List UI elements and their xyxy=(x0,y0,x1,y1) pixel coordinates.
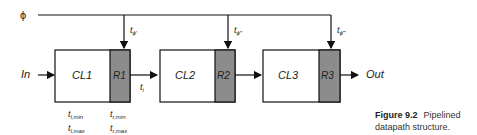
interstage-label: ti xyxy=(140,82,145,93)
figure-caption: Figure 9.2Pipelined xyxy=(375,110,461,120)
timing-register-min: tr,min xyxy=(110,109,126,120)
timing-logic-min: tl,min xyxy=(68,109,84,120)
stage-2-logic-label: CL2 xyxy=(175,69,195,81)
stage-1-register-label: R1 xyxy=(113,70,126,81)
figure-caption-line2: datapath structure. xyxy=(375,122,450,132)
timing-register-max: tr,max xyxy=(110,123,128,134)
timing-logic-max: tl,max xyxy=(68,123,86,134)
stage-1-logic-label: CL1 xyxy=(72,69,92,81)
output-label: Out xyxy=(366,68,385,80)
pipelined-datapath-diagram: ϕ tϕ′ tϕ″ tϕ‴ In CL1 R1 ti CL2 R2 CL3 R3… xyxy=(0,0,477,135)
stage-3-logic-label: CL3 xyxy=(278,69,299,81)
tap-label-1: tϕ′ xyxy=(130,25,138,36)
input-label: In xyxy=(21,68,30,80)
stage-3-register-label: R3 xyxy=(321,70,334,81)
clock-label: ϕ xyxy=(20,9,26,21)
tap-label-2: tϕ″ xyxy=(234,25,243,36)
tap-label-3: tϕ‴ xyxy=(337,25,346,36)
stage-2-register-label: R2 xyxy=(217,70,230,81)
